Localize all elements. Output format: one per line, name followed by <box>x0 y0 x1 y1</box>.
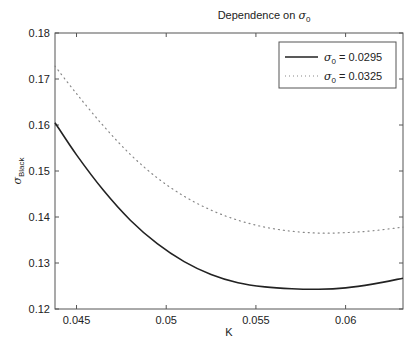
y-tick-label: 0.17 <box>29 73 50 85</box>
y-tick-label: 0.18 <box>29 27 50 39</box>
y-tick-label: 0.13 <box>29 257 50 269</box>
y-tick-label: 0.14 <box>29 211 50 223</box>
x-tick-label: 0.05 <box>156 314 177 326</box>
y-tick-label: 0.12 <box>29 303 50 315</box>
y-axis-label: σBlack <box>11 156 26 184</box>
x-tick-label: 0.055 <box>242 314 270 326</box>
chart-title: Dependence on σ0 <box>218 9 311 24</box>
x-axis-label: K <box>225 326 233 338</box>
x-tick-label: 0.06 <box>335 314 356 326</box>
legend: σ0 = 0.0295 σ0 = 0.0325 <box>279 42 396 88</box>
x-tick-label: 0.045 <box>63 314 91 326</box>
y-tick-label: 0.15 <box>29 165 50 177</box>
chart: Dependence on σ0 0.120.130.140.150.160.1… <box>0 0 419 351</box>
y-tick-label: 0.16 <box>29 119 50 131</box>
